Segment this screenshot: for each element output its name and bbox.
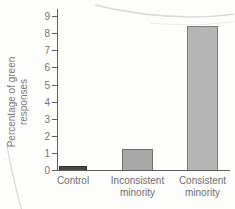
y-tick-mark-6	[52, 67, 58, 68]
y-tick-mark-8	[52, 33, 58, 34]
y-tick-label-1: 1	[30, 148, 50, 159]
bar-control	[59, 166, 87, 170]
y-tick-label-3: 3	[30, 114, 50, 125]
y-tick-mark-1	[52, 153, 58, 154]
y-tick-mark-2	[52, 136, 58, 137]
y-tick-mark-9	[52, 16, 58, 17]
y-tick-label-9: 9	[30, 11, 50, 22]
y-tick-mark-7	[52, 50, 58, 51]
x-label-consistent-minority: Consistentminority	[158, 175, 235, 199]
y-axis-title-line2: responses	[18, 46, 30, 158]
y-tick-label-8: 8	[30, 28, 50, 39]
y-tick-label-6: 6	[30, 62, 50, 73]
y-tick-mark-5	[52, 85, 58, 86]
scanned-page: Percentage of green responses 0123456789…	[0, 0, 234, 209]
x-label-line: Consistent	[158, 175, 235, 187]
y-tick-label-4: 4	[30, 97, 50, 108]
bar-consistent-minority	[187, 26, 218, 170]
y-tick-label-7: 7	[30, 45, 50, 56]
y-tick-mark-4	[52, 102, 58, 103]
y-tick-label-5: 5	[30, 80, 50, 91]
y-tick-mark-0	[52, 170, 58, 171]
x-label-line: minority	[158, 187, 235, 199]
bar-inconsistent-minority	[122, 149, 153, 170]
bar-chart: Percentage of green responses 0123456789…	[0, 0, 234, 209]
y-tick-mark-3	[52, 119, 58, 120]
x-axis-line	[56, 170, 230, 171]
y-tick-label-2: 2	[30, 131, 50, 142]
y-axis-title: Percentage of green responses	[6, 46, 30, 158]
y-axis-title-line1: Percentage of green	[6, 46, 18, 158]
